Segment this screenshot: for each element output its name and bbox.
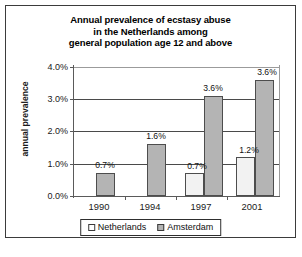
bar-value-2001-netherlands: 1.2%	[239, 145, 259, 155]
bar-value-1994-amsterdam: 1.6%	[146, 131, 166, 141]
plot-right-edge	[279, 65, 280, 196]
legend-item-netherlands[interactable]: Netherlands	[88, 222, 147, 232]
bar-value-2001-amsterdam: 3.6%	[257, 67, 277, 77]
legend-label-netherlands: Netherlands	[98, 222, 147, 232]
chart-legend: Netherlands Amsterdam	[80, 219, 222, 236]
legend-item-amsterdam[interactable]: Amsterdam	[157, 222, 213, 232]
y-axis-label-1-0: 1.0%	[47, 159, 68, 169]
bar-value-1997-netherlands: 0.7%	[187, 161, 207, 171]
x-axis-label-1994: 1994	[140, 201, 161, 212]
x-axis-label-1990: 1990	[89, 201, 110, 212]
legend-swatch-netherlands-icon	[88, 224, 95, 231]
bar-group-1994: 1.6%	[125, 67, 176, 196]
y-axis-label-4-0: 4.0%	[47, 62, 68, 72]
x-separator-2	[176, 196, 177, 200]
bar-value-1990-amsterdam: 0.7%	[95, 160, 115, 170]
y-tick-0-0	[70, 196, 74, 197]
bar-1997-netherlands[interactable]	[185, 173, 204, 196]
bar-value-1997-amsterdam: 3.6%	[203, 83, 223, 93]
caption-remnant	[8, 248, 294, 255]
x-separator-3	[227, 196, 228, 200]
x-axis-label-1997: 1997	[191, 201, 212, 212]
chart-title: Annual prevalence of ecstasy abuse in th…	[6, 14, 295, 49]
legend-swatch-amsterdam-icon	[157, 224, 164, 231]
chart-frame: Annual prevalence of ecstasy abuse in th…	[5, 5, 296, 238]
bar-1997-amsterdam[interactable]	[204, 96, 223, 196]
chart-title-line-3: general population age 12 and above	[6, 37, 295, 49]
y-axis-title: annual prevalence	[20, 59, 30, 179]
y-axis-label-2-0: 2.0%	[47, 126, 68, 136]
y-axis-label-0-0: 0.0%	[47, 191, 68, 201]
x-separator-1	[125, 196, 126, 200]
y-axis-label-3-0: 3.0%	[47, 94, 68, 104]
plot-area: 4.0% 3.0% 2.0% 1.0% 0.0% 0.7% 1.6% 0.7% …	[74, 67, 279, 196]
bar-group-2001: 1.2% 3.6%	[227, 67, 278, 196]
chart-title-line-2: in the Netherlands among	[6, 26, 295, 38]
chart-title-line-1: Annual prevalence of ecstasy abuse	[6, 14, 295, 26]
bar-2001-amsterdam[interactable]	[255, 80, 274, 196]
bar-1990-amsterdam[interactable]	[96, 173, 115, 196]
legend-label-amsterdam: Amsterdam	[167, 222, 213, 232]
bar-1994-amsterdam[interactable]	[147, 144, 166, 196]
bar-group-1990: 0.7%	[74, 67, 125, 196]
bar-2001-netherlands[interactable]	[236, 157, 255, 196]
bar-group-1997: 0.7% 3.6%	[176, 67, 227, 196]
x-axis-label-2001: 2001	[242, 201, 263, 212]
